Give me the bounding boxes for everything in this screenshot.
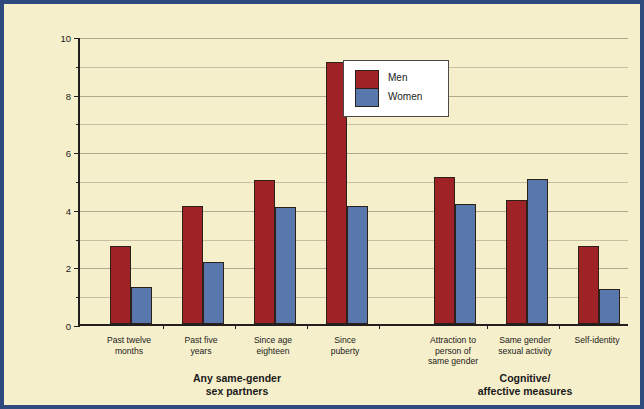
- bar-women: [599, 289, 620, 324]
- bar-men: [434, 177, 455, 324]
- bar-men: [110, 246, 131, 324]
- chart-legend: Men Women: [343, 60, 449, 117]
- legend-label-men: Men: [388, 72, 407, 83]
- y-axis-label: 8: [66, 90, 71, 101]
- bar-women: [527, 179, 548, 324]
- legend-label-women: Women: [388, 91, 422, 102]
- x-axis-group-label: Any same-gender sex partners: [147, 372, 327, 398]
- x-axis-tick: [559, 324, 560, 329]
- y-axis-tick: [74, 268, 80, 269]
- bar-men: [254, 180, 275, 324]
- y-axis-label: 6: [66, 148, 71, 159]
- x-axis-category-label: Self-identity: [553, 335, 641, 346]
- bar-men: [182, 206, 203, 324]
- y-axis-label: 10: [60, 33, 71, 44]
- legend-swatch-men: [356, 71, 378, 88]
- y-axis-tick: [74, 153, 80, 154]
- x-axis-tick: [487, 324, 488, 329]
- chart-canvas: Percent of Total NHSLS Sample 0246810 Me…: [6, 6, 638, 403]
- y-axis-tick-minor: [76, 67, 80, 68]
- y-axis-label: 4: [66, 205, 71, 216]
- bar-women: [347, 206, 368, 324]
- gridline-minor: [80, 124, 628, 125]
- gridline-major: [80, 38, 628, 39]
- y-axis-tick-minor: [76, 297, 80, 298]
- y-axis-tick-minor: [76, 240, 80, 241]
- y-axis-tick: [74, 96, 80, 97]
- x-axis-tick: [307, 324, 308, 329]
- y-axis-tick-minor: [76, 182, 80, 183]
- y-axis-tick-minor: [76, 124, 80, 125]
- x-axis-group-label: Cognitive/ affective measures: [435, 372, 615, 398]
- legend-swatch-group: [355, 70, 379, 107]
- bar-women: [455, 204, 476, 324]
- x-axis-tick: [235, 324, 236, 329]
- x-axis-category-label: Since puberty: [301, 335, 389, 356]
- chart-figure: Percent of Total NHSLS Sample 0246810 Me…: [0, 0, 644, 409]
- x-axis-tick: [379, 324, 380, 329]
- bar-men: [506, 200, 527, 324]
- bar-women: [203, 262, 224, 324]
- y-axis-tick: [74, 38, 80, 39]
- y-axis-title: Percent of Total NHSLS Sample: [16, 0, 32, 62]
- y-axis-tick: [74, 326, 80, 327]
- bar-men: [578, 246, 599, 324]
- y-axis-label: 0: [66, 321, 71, 332]
- bar-women: [275, 207, 296, 324]
- x-axis-tick: [163, 324, 164, 329]
- bar-women: [131, 287, 152, 324]
- y-axis-tick: [74, 211, 80, 212]
- gridline-major: [80, 153, 628, 154]
- y-axis-label: 2: [66, 263, 71, 274]
- legend-swatch-women: [356, 88, 378, 106]
